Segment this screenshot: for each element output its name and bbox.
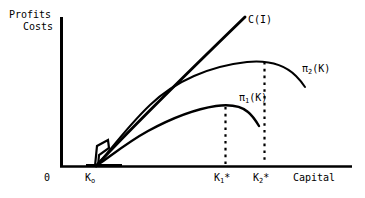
x-axis-title: Capital — [293, 172, 335, 184]
y-axis-title: Profits Costs — [9, 9, 53, 33]
pi1-argument: (K) — [249, 92, 267, 103]
economics-figure: Profits Costs 0 Ko K1* K2* Capital C(I) … — [0, 0, 365, 198]
plot-area — [0, 0, 365, 198]
y-axis-title-profits: Profits — [9, 9, 51, 20]
origin-label: 0 — [44, 172, 50, 184]
pi2-curve-label: π2(K) — [302, 63, 330, 78]
x-tick-label-k1-star: K1* — [214, 172, 230, 187]
pi1-curve-label: π1(K) — [239, 92, 267, 107]
pi2-argument: (K) — [312, 63, 330, 74]
k2-star-glyph: * — [263, 172, 269, 183]
cost-curve-ci — [96, 17, 245, 166]
k1-star-glyph: * — [224, 172, 230, 183]
profit-curve-pi2 — [99, 62, 305, 163]
y-axis-title-costs: Costs — [9, 21, 53, 33]
k0-subscript: o — [91, 177, 95, 185]
cost-curve-label: C(I) — [248, 14, 272, 26]
x-tick-label-k0: Ko — [85, 172, 95, 187]
x-tick-label-k2-star: K2* — [253, 172, 269, 187]
